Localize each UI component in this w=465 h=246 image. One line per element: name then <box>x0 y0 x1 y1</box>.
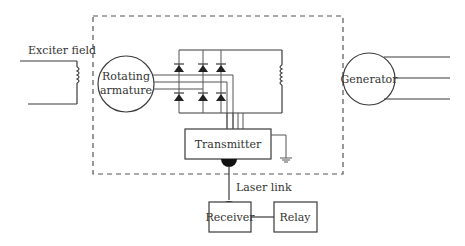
exciter-field-label: Exciter field <box>28 44 96 57</box>
relay-label: Relay <box>279 211 311 224</box>
receiver-label: Receiver <box>206 211 256 224</box>
rotating-armature-label-2: armature <box>100 84 152 97</box>
rotating-armature: Rotating armature <box>98 56 154 112</box>
diode-icon <box>216 93 226 101</box>
rotor-coil-icon <box>280 65 282 85</box>
diode-icon <box>216 64 226 72</box>
diode-icon <box>174 64 184 72</box>
receiver: Receiver <box>206 202 256 232</box>
rotating-armature-label-1: Rotating <box>102 70 150 83</box>
generator: Generator <box>340 53 450 105</box>
relay: Relay <box>274 202 317 232</box>
laser-link-label: Laser link <box>236 181 292 194</box>
generator-label: Generator <box>340 73 398 86</box>
diode-icon <box>174 93 184 101</box>
brushless-exciter-diagram: Exciter field Rotating armature <box>0 0 465 246</box>
rotor-field-coil <box>280 50 282 113</box>
diode-icon <box>198 64 208 72</box>
diode-icon <box>198 93 208 101</box>
laser-emitter-icon <box>221 159 237 167</box>
exciter-field: Exciter field <box>20 44 96 104</box>
transmitter-label: Transmitter <box>195 138 262 151</box>
exciter-field-coil-icon <box>77 67 79 83</box>
